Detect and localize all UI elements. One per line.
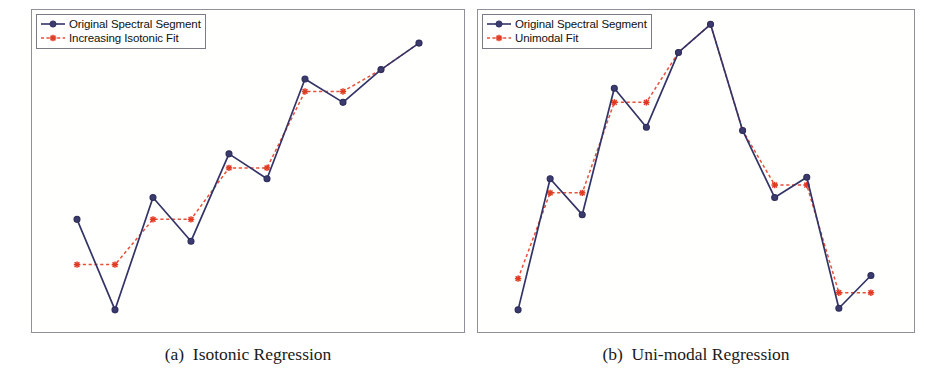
original-series-b (515, 21, 874, 312)
data-point-marker (868, 289, 874, 295)
legend-entry-fit-a: Increasing Isotonic Fit (40, 31, 201, 45)
data-point-marker (150, 216, 156, 222)
fit-series-b (515, 21, 874, 296)
data-point-marker (675, 49, 681, 55)
plot-area-a (31, 9, 465, 333)
series-line (77, 43, 419, 310)
data-point-marker (340, 88, 346, 94)
panel-isotonic-regression: Original Spectral Segment Increasing Iso… (31, 9, 465, 333)
data-point-marker (226, 165, 232, 171)
data-point-marker (804, 174, 810, 180)
figure-container: Original Spectral Segment Increasing Iso… (0, 0, 933, 387)
data-point-marker (579, 190, 585, 196)
data-point-marker (112, 261, 118, 267)
panel-unimodal-regression: Original Spectral Segment Unimodal Fit (477, 9, 915, 333)
data-point-marker (74, 216, 80, 222)
legend-label-fit-b: Unimodal Fit (515, 31, 578, 45)
data-point-marker (836, 305, 842, 311)
fit-series-a (74, 40, 422, 268)
plot-area-b (477, 9, 915, 333)
navy-circle-solid-line-icon (40, 18, 66, 30)
legend-a: Original Spectral Segment Increasing Iso… (36, 14, 206, 49)
legend-entry-fit-b: Unimodal Fit (486, 31, 647, 45)
data-point-marker (868, 273, 874, 279)
caption-panel-a: (a) Isotonic Regression (31, 344, 465, 365)
red-asterisk-dashed-line-icon (486, 32, 512, 44)
legend-label-original-a: Original Spectral Segment (69, 17, 201, 31)
data-point-marker (112, 307, 118, 313)
series-line (518, 24, 871, 309)
data-point-marker (643, 99, 649, 105)
data-point-marker (515, 307, 521, 313)
legend-label-fit-a: Increasing Isotonic Fit (69, 31, 179, 45)
data-point-marker (515, 275, 521, 281)
series-line (77, 43, 419, 265)
data-point-marker (611, 85, 617, 91)
data-point-marker (416, 40, 422, 46)
series-line (518, 24, 871, 292)
data-point-marker (264, 165, 270, 171)
legend-entry-original-b: Original Spectral Segment (486, 17, 647, 31)
data-point-marker (188, 216, 194, 222)
data-point-marker (579, 212, 585, 218)
legend-entry-original-a: Original Spectral Segment (40, 17, 201, 31)
legend-b: Original Spectral Segment Unimodal Fit (482, 14, 652, 49)
caption-panel-b: (b) Uni-modal Regression (477, 344, 915, 365)
data-point-marker (302, 88, 308, 94)
data-point-marker (836, 289, 842, 295)
data-point-marker (302, 76, 308, 82)
data-point-marker (771, 182, 777, 188)
data-point-marker (340, 99, 346, 105)
data-point-marker (378, 67, 384, 73)
data-point-marker (226, 151, 232, 157)
data-point-marker (643, 124, 649, 130)
navy-circle-solid-line-icon (486, 18, 512, 30)
red-asterisk-dashed-line-icon (40, 32, 66, 44)
data-point-marker (264, 176, 270, 182)
legend-label-original-b: Original Spectral Segment (515, 17, 647, 31)
data-point-marker (188, 238, 194, 244)
data-point-marker (740, 127, 746, 133)
data-point-marker (708, 21, 714, 27)
data-point-marker (150, 195, 156, 201)
data-point-marker (547, 176, 553, 182)
data-point-marker (74, 261, 80, 267)
original-series-a (74, 40, 422, 313)
data-point-marker (772, 195, 778, 201)
